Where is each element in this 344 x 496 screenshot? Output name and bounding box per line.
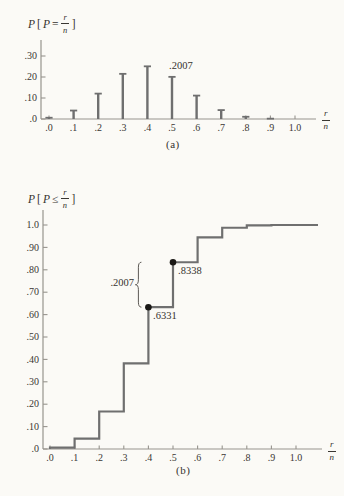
pmf-x-tick-label: .9 bbox=[267, 122, 275, 133]
pmf-x-tick-label: .6 bbox=[193, 122, 201, 133]
cdf-y-axis-title: P[P≤rn] bbox=[28, 188, 75, 209]
pmf-title-close-bracket: ] bbox=[72, 18, 76, 30]
pmf-title-symbol: P bbox=[28, 18, 35, 30]
pmf-x-tick-label: .7 bbox=[217, 122, 225, 133]
cdf-x-tick-label: 1.0 bbox=[290, 452, 303, 463]
cdf-x-tick-label: .1 bbox=[71, 452, 79, 463]
pmf-title-fraction: rn bbox=[61, 13, 68, 34]
cdf-y-tick-label: .0 bbox=[32, 443, 40, 454]
cdf-jump-annotation: .2007 bbox=[88, 277, 134, 288]
cdf-title-open-bracket: [ bbox=[37, 193, 41, 205]
pmf-y-tick-label: .10 bbox=[25, 92, 38, 103]
fraction-numerator: r bbox=[61, 188, 68, 199]
cdf-title-relation: ≤ bbox=[52, 193, 58, 205]
pmf-title-symbol2: P bbox=[43, 18, 50, 30]
cdf-point-label-6331: .6331 bbox=[153, 310, 177, 321]
fraction-denominator: n bbox=[324, 121, 329, 132]
cdf-y-tick-label: .20 bbox=[27, 398, 40, 409]
pmf-y-axis-title: P[P=rn] bbox=[28, 13, 76, 34]
fraction-numerator: r bbox=[328, 440, 336, 452]
pmf-peak-value-annotation: .2007 bbox=[169, 60, 193, 71]
pmf-x-tick-label: .0 bbox=[45, 122, 53, 133]
pmf-x-tick-label: .1 bbox=[70, 122, 78, 133]
cdf-y-tick-label: .60 bbox=[27, 309, 40, 320]
cdf-jump-brace bbox=[135, 262, 141, 307]
cdf-x-tick-label: .4 bbox=[145, 452, 153, 463]
cdf-x-tick-label: .6 bbox=[194, 452, 202, 463]
cdf-title-symbol2: P bbox=[43, 193, 50, 205]
pmf-y-tick-label: .30 bbox=[25, 50, 38, 61]
cdf-y-tick-label: .80 bbox=[27, 264, 40, 275]
cdf-x-tick-label: .9 bbox=[268, 452, 276, 463]
pmf-x-tick-label: .3 bbox=[119, 122, 127, 133]
cdf-title-close-bracket: ] bbox=[72, 193, 76, 205]
cdf-x-tick-label: .0 bbox=[46, 452, 54, 463]
pmf-title-open-bracket: [ bbox=[37, 18, 41, 30]
pmf-x-tick-label: .2 bbox=[94, 122, 102, 133]
caption-a: (a) bbox=[166, 138, 180, 150]
cdf-x-tick-label: .2 bbox=[95, 452, 103, 463]
pmf-x-tick-label: 1.0 bbox=[289, 122, 302, 133]
cdf-step-curve bbox=[50, 225, 318, 449]
fraction-numerator: r bbox=[61, 13, 68, 24]
cdf-title-symbol: P bbox=[28, 193, 35, 205]
cdf-marked-point bbox=[145, 304, 152, 311]
cdf-y-tick-label: .40 bbox=[27, 354, 40, 365]
pmf-x-tick-label: .4 bbox=[144, 122, 152, 133]
pmf-y-tick-label: .0 bbox=[30, 113, 38, 124]
cdf-x-axis-label: r n bbox=[328, 440, 336, 462]
cdf-title-fraction: rn bbox=[61, 188, 68, 209]
figure-page: .0.10.20.30.0.1.2.3.4.5.6.7.8.91.0.0.10.… bbox=[0, 0, 344, 496]
cdf-y-tick-label: .10 bbox=[27, 421, 40, 432]
cdf-y-tick-label: .90 bbox=[27, 242, 40, 253]
cdf-x-tick-label: .3 bbox=[120, 452, 128, 463]
cdf-y-tick-label: .70 bbox=[27, 286, 40, 297]
cdf-marked-point bbox=[170, 259, 177, 266]
cdf-x-tick-label: .5 bbox=[169, 452, 177, 463]
cdf-x-tick-label: .8 bbox=[243, 452, 251, 463]
probability-charts-svg: .0.10.20.30.0.1.2.3.4.5.6.7.8.91.0.0.10.… bbox=[0, 0, 344, 496]
fraction-denominator: n bbox=[63, 24, 67, 34]
fraction-denominator: n bbox=[63, 199, 67, 209]
pmf-x-tick-label: .5 bbox=[168, 122, 176, 133]
pmf-title-relation: = bbox=[52, 18, 59, 30]
pmf-x-tick-label: .8 bbox=[242, 122, 250, 133]
cdf-x-tick-label: .7 bbox=[218, 452, 226, 463]
fraction-denominator: n bbox=[330, 452, 335, 463]
pmf-y-tick-label: .20 bbox=[25, 71, 38, 82]
cdf-y-tick-label: .30 bbox=[27, 376, 40, 387]
cdf-y-tick-label: 1.0 bbox=[27, 219, 40, 230]
cdf-y-tick-label: .50 bbox=[27, 331, 40, 342]
caption-b: (b) bbox=[176, 464, 190, 476]
pmf-x-axis-label: r n bbox=[322, 109, 330, 131]
cdf-point-label-8338: .8338 bbox=[178, 265, 202, 276]
fraction-numerator: r bbox=[322, 109, 330, 121]
